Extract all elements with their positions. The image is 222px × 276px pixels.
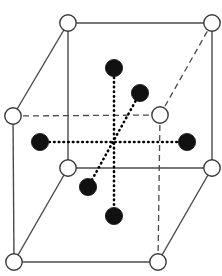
interior-atom-up bbox=[105, 59, 122, 76]
interior-atom-down bbox=[105, 207, 122, 224]
unit-cell-canvas bbox=[0, 0, 222, 276]
edge-rear-left-vertical bbox=[13, 116, 14, 262]
corner-atom-rear-top-left bbox=[5, 108, 21, 124]
interior-atom-rear-upper bbox=[131, 84, 148, 101]
interior-atom-right bbox=[178, 133, 195, 150]
crystal-unit-cell-figure bbox=[0, 0, 222, 276]
corner-atom-front-top-left bbox=[60, 15, 76, 31]
interior-atom-left bbox=[31, 133, 48, 150]
corner-atom-front-bottom-left bbox=[60, 160, 76, 176]
corner-atom-front-bottom-right bbox=[204, 160, 220, 176]
corner-atom-rear-bottom-right bbox=[150, 254, 166, 270]
corner-atom-rear-top-right bbox=[152, 107, 168, 123]
interior-atom-front-lower bbox=[79, 178, 96, 195]
corner-atom-front-top-right bbox=[204, 15, 220, 31]
corner-atom-rear-bottom-left bbox=[6, 254, 22, 270]
